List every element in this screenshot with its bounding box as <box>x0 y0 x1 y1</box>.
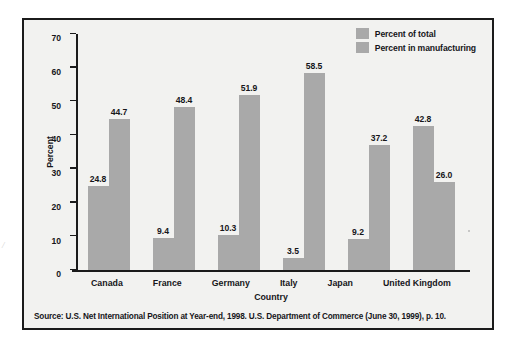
plot-area: Percent 010203040506070 24.844.79.448.41… <box>76 34 466 270</box>
bar-groups: 24.844.79.448.410.351.93.558.59.237.242.… <box>76 34 466 270</box>
y-axis-tick-label: 0 <box>56 269 61 270</box>
bar-column[interactable]: 42.8 <box>413 34 434 270</box>
bar-column[interactable]: 37.2 <box>369 34 390 270</box>
bar-group: 42.826.0 <box>413 34 455 270</box>
x-axis-category-labels: CanadaFranceGermanyItalyJapanUnited King… <box>76 278 466 288</box>
x-axis-title: Country <box>76 292 466 302</box>
scan-speck <box>468 230 470 232</box>
bar[interactable] <box>174 107 195 270</box>
bar-column[interactable]: 58.5 <box>304 34 325 270</box>
bar-value-label: 58.5 <box>306 61 323 71</box>
chart-figure-inner: Percent of total Percent in manufacturin… <box>24 20 492 328</box>
x-axis-category-label: Germany <box>212 278 250 288</box>
x-axis-category-label: Italy <box>280 278 298 288</box>
bar-value-label: 51.9 <box>241 83 258 93</box>
bar-value-label: 9.2 <box>352 227 364 237</box>
bar[interactable] <box>369 145 390 270</box>
bar-group: 9.448.4 <box>153 34 195 270</box>
bar[interactable] <box>218 235 239 270</box>
bar[interactable] <box>283 258 304 270</box>
y-axis-tick-label: 10 <box>51 235 61 236</box>
y-axis-tick-label: 60 <box>51 67 61 68</box>
y-axis-tick-label: 20 <box>51 201 61 202</box>
bar-value-label: 3.5 <box>287 246 299 256</box>
bar-value-label: 44.7 <box>111 107 128 117</box>
bar-value-label: 10.3 <box>220 223 237 233</box>
bar-value-label: 37.2 <box>371 133 388 143</box>
bar[interactable] <box>88 186 109 270</box>
y-axis-tick-label: 50 <box>51 100 61 101</box>
page-edge-artifact: / <box>2 240 5 250</box>
bar-column[interactable]: 26.0 <box>434 34 455 270</box>
y-axis-tick-label: 70 <box>51 33 61 34</box>
bar-column[interactable]: 24.8 <box>88 34 109 270</box>
chart-figure: Percent of total Percent in manufacturin… <box>22 18 494 330</box>
bar-value-label: 9.4 <box>157 226 169 236</box>
bar-value-label: 26.0 <box>436 170 453 180</box>
x-axis-category-label: France <box>153 278 182 288</box>
bar[interactable] <box>434 182 455 270</box>
bar-column[interactable]: 3.5 <box>283 34 304 270</box>
y-axis-tick-label: 40 <box>51 134 61 135</box>
bar-value-label: 24.8 <box>90 174 107 184</box>
x-axis-category-label: Canada <box>91 278 123 288</box>
bar-column[interactable]: 9.2 <box>348 34 369 270</box>
bar-column[interactable]: 9.4 <box>153 34 174 270</box>
bar-group: 3.558.5 <box>283 34 325 270</box>
bar-column[interactable]: 10.3 <box>218 34 239 270</box>
bar-value-label: 48.4 <box>176 95 193 105</box>
bar[interactable] <box>153 238 174 270</box>
source-note: Source: U.S. Net International Position … <box>34 312 482 321</box>
bar-column[interactable]: 44.7 <box>109 34 130 270</box>
bar[interactable] <box>413 126 434 270</box>
x-axis-category-label: United Kingdom <box>383 278 451 288</box>
bar[interactable] <box>239 95 260 270</box>
bar-group: 10.351.9 <box>218 34 260 270</box>
bar-group: 24.844.7 <box>88 34 130 270</box>
bar[interactable] <box>348 239 369 270</box>
bar[interactable] <box>304 73 325 270</box>
bar-column[interactable]: 48.4 <box>174 34 195 270</box>
bar-value-label: 42.8 <box>415 114 432 124</box>
bar-column[interactable]: 51.9 <box>239 34 260 270</box>
y-axis-tick-label: 30 <box>51 168 61 169</box>
bar-group: 9.237.2 <box>348 34 390 270</box>
bar[interactable] <box>109 119 130 270</box>
x-axis-category-label: Japan <box>328 278 353 288</box>
